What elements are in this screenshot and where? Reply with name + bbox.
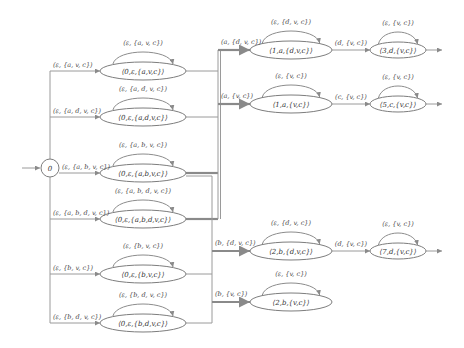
self-loop-label-m1: (ε, {d, v, c})	[271, 18, 311, 26]
edge-label-r3: (d, {v, c})	[335, 240, 368, 248]
state-label-n4: ⟨0,ε,{a,b,d,v,c}⟩	[115, 216, 171, 224]
state-label-r2: ⟨5,c,{v,c}⟩	[380, 101, 417, 109]
state-label-r1: ⟨3,d,{v,c}⟩	[379, 47, 416, 55]
self-loop-label-m3: (ε, {d, v, c})	[271, 219, 311, 227]
state-label-m3: ⟨2,b,{d,v,c}⟩	[269, 248, 313, 256]
edges-layer	[22, 50, 442, 323]
self-loop-label-m4: (ε, {v, c})	[275, 270, 307, 278]
edge-label-n6: (ε, {b, d, v, c})	[53, 313, 102, 321]
state-label-m1: ⟨1,a,{d,v,c}⟩	[269, 47, 313, 55]
start-state-label: 0	[48, 165, 53, 173]
self-loop-label-n5: (ε, {b, v, c})	[123, 242, 163, 250]
state-diagram: 0⟨0,ε,{a,v,c}⟩⟨0,ε,{a,d,v,c}⟩⟨0,ε,{a,b,v…	[0, 0, 464, 348]
edge-label-n3: (ε, {a, b, v, c})	[62, 163, 110, 171]
edge-label-m2: (a, {v, c})	[221, 92, 253, 100]
state-label-r3: ⟨7,d,{v,c}⟩	[379, 248, 416, 256]
self-loop-label-n3: (ε, {a, b, v, c})	[119, 141, 167, 149]
state-label-m4: ⟨2,b,{v,c}⟩	[272, 299, 309, 307]
edge-label-m1: (a, {d, v, c})	[221, 38, 262, 46]
edge-label-n5: (ε, {b, v, c})	[53, 264, 93, 272]
state-label-n3: ⟨0,ε,{a,b,v,c}⟩	[118, 170, 168, 178]
self-loop-label-r2: (ε, {v, c})	[382, 73, 414, 81]
edge-label-m3: (b, {d, v, c})	[215, 239, 256, 247]
self-loop-label-n6: (ε, {b, d, v, c})	[119, 291, 168, 299]
edge-label-r2: (c, {v, c})	[335, 93, 367, 101]
nodes-layer: 0⟨0,ε,{a,v,c}⟩⟨0,ε,{a,d,v,c}⟩⟨0,ε,{a,b,v…	[41, 31, 426, 332]
edge-label-r1: (d, {v, c})	[335, 39, 368, 47]
edge-label-m4: (b, {v, c})	[215, 290, 248, 298]
self-loop-label-r1: (ε, {v, c})	[382, 19, 414, 27]
state-label-n5: ⟨0,ε,{b,v,c}⟩	[121, 271, 164, 279]
state-label-n2: ⟨0,ε,{a,d,v,c}⟩	[118, 114, 168, 122]
self-loop-label-r3: (ε, {v, c})	[382, 220, 414, 228]
self-loop-label-n1: (ε, {a, v, c})	[123, 39, 163, 47]
self-loop-label-n2: (ε, {a, d, v, c})	[119, 85, 167, 93]
edge-label-n4: (ε, {a, b, d, v, c})	[53, 209, 110, 217]
state-label-n6: ⟨0,ε,{b,d,v,c}⟩	[118, 320, 168, 328]
edge-label-n2: (ε, {a, d, v, c})	[53, 107, 101, 115]
edge-label-n1: (ε, {a, v, c})	[53, 61, 93, 69]
state-label-n1: ⟨0,ε,{a,v,c}⟩	[122, 68, 165, 76]
state-label-m2: ⟨1,a,{v,c}⟩	[273, 101, 310, 109]
self-loop-label-n4: (ε, {a, b, d, v, c})	[115, 187, 172, 195]
self-loop-label-m2: (ε, {v, c})	[275, 72, 307, 80]
